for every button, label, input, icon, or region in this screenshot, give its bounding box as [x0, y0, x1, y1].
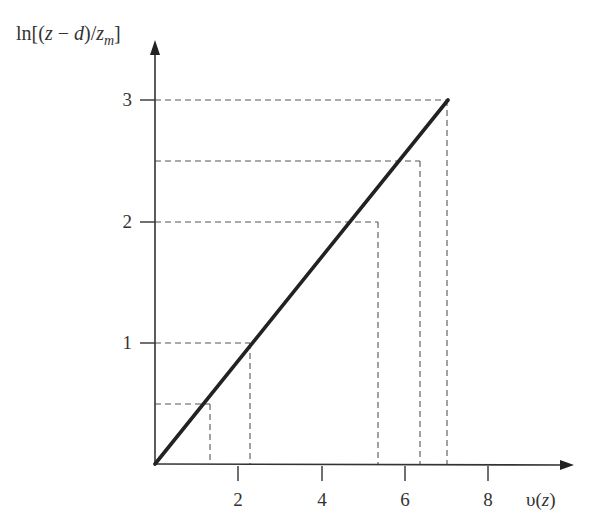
profile-line [155, 100, 448, 464]
x-axis-arrow-icon [560, 460, 574, 470]
y-label-zm: z [96, 22, 104, 44]
y-tick-label-3: 3 [112, 89, 132, 111]
x-label-close: ) [549, 489, 555, 510]
axes [155, 52, 564, 465]
y-label-d: d [74, 22, 84, 44]
y-label-minus: − [53, 22, 74, 44]
y-label-z: z [45, 22, 53, 44]
x-axis-label: υ(z) [526, 489, 555, 511]
y-label-sub: m [104, 33, 114, 48]
x-tick-label-8: 8 [483, 489, 493, 511]
x-axis [155, 464, 564, 465]
y-label-slash: )/ [84, 22, 96, 44]
chart-canvas [0, 0, 592, 532]
y-tick-label-2: 2 [112, 211, 132, 233]
y-label-prefix: ln[( [16, 22, 45, 44]
x-tick-label-6: 6 [400, 489, 410, 511]
x-label-upsilon: υ( [526, 489, 542, 510]
y-label-suffix: ] [114, 22, 121, 44]
x-tick-marks [238, 466, 488, 481]
x-tick-label-2: 2 [233, 489, 243, 511]
y-tick-label-1: 1 [112, 332, 132, 354]
x-tick-label-4: 4 [317, 489, 327, 511]
y-axis-label: ln[(z − d)/zm] [16, 22, 121, 49]
y-axis-arrow-icon [150, 40, 160, 55]
y-tick-marks [140, 100, 155, 343]
